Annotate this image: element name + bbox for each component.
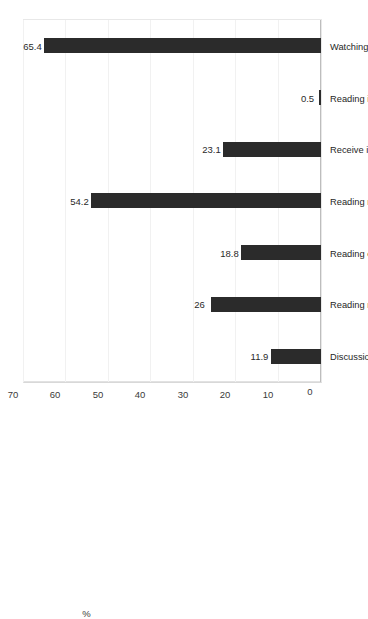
bar-group: 26Reading newspapers (printed) bbox=[24, 279, 321, 331]
bar-series: 11.9Discussions with family and friends2… bbox=[24, 20, 321, 382]
plot-area: 010203040506070 11.9Discussions with fam… bbox=[23, 19, 322, 383]
bar-value-label: 26 bbox=[194, 299, 205, 310]
bar-5[interactable]: 23.1 bbox=[223, 142, 321, 157]
bar-3[interactable]: 18.8 bbox=[241, 245, 321, 260]
bar-value-label: 11.9 bbox=[250, 351, 268, 362]
bar-4[interactable]: 54.2 bbox=[91, 193, 321, 208]
bar-group: 54.2Reading news on Facebook/Twitter/ In… bbox=[24, 175, 321, 227]
bar-2[interactable]: 26 bbox=[211, 297, 321, 312]
bar-7[interactable]: 65.4 bbox=[44, 38, 321, 53]
y-tick-label-50: 50 bbox=[93, 389, 104, 400]
bar-group: 23.1Receive information via WhatsApp/Wec… bbox=[24, 123, 321, 175]
bar-value-label: 54.2 bbox=[70, 195, 89, 206]
y-tick-label-10: 10 bbox=[262, 389, 273, 400]
bar-1[interactable]: 11.9 bbox=[271, 349, 321, 364]
category-label: Watching television bbox=[330, 42, 368, 52]
y-tick-label-30: 30 bbox=[177, 389, 188, 400]
bar-value-label: 23.1 bbox=[202, 144, 221, 155]
bar-group: 11.9Discussions with family and friends bbox=[24, 330, 321, 382]
y-tick-label-40: 40 bbox=[135, 389, 146, 400]
y-tick-label-70: 70 bbox=[8, 389, 19, 400]
bar-value-label: 18.8 bbox=[220, 247, 239, 258]
bar-value-label: 0.5 bbox=[301, 92, 314, 103]
bar-chart: 010203040506070 11.9Discussions with fam… bbox=[0, 0, 368, 619]
bar-group: 0.5Reading information received via emai… bbox=[24, 72, 321, 124]
bar-value-label: 65.4 bbox=[23, 40, 42, 51]
category-label: Receive information via WhatsApp/Wechat/… bbox=[330, 145, 368, 155]
y-tick-label-20: 20 bbox=[220, 389, 231, 400]
y-tick-label-0: 0 bbox=[307, 386, 312, 397]
bar-group: 18.8Reading online news and articles bbox=[24, 227, 321, 279]
category-label: Discussions with family and friends bbox=[330, 352, 368, 362]
category-label: Reading news on Facebook/Twitter/ Instag… bbox=[330, 197, 368, 207]
bar-6[interactable]: 0.5 bbox=[319, 90, 321, 105]
category-label: Reading online news and articles bbox=[330, 249, 368, 259]
chart-container: 010203040506070 11.9Discussions with fam… bbox=[0, 0, 368, 619]
bar-group: 65.4Watching television bbox=[24, 20, 321, 72]
y-axis-unit-label: % bbox=[82, 608, 90, 619]
y-tick-label-60: 60 bbox=[50, 389, 61, 400]
category-label: Reading information received via emails bbox=[330, 94, 368, 104]
category-label: Reading newspapers (printed) bbox=[330, 300, 368, 310]
